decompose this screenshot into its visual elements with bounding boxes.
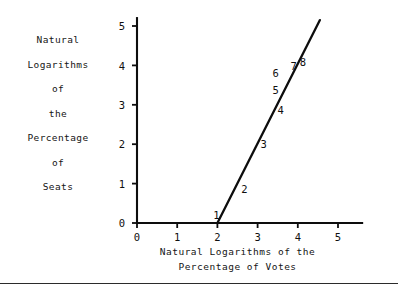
data-point-label-group: 12345678 [213, 56, 306, 221]
chart-axes [137, 18, 362, 223]
x-tick-group: 012345 [134, 223, 341, 243]
y-tick-label: 4 [119, 60, 125, 72]
y-axis-title-line: Natural [6, 28, 110, 53]
data-point-label: 1 [213, 209, 219, 221]
y-tick-label: 2 [119, 138, 125, 150]
data-point-label: 6 [273, 67, 279, 79]
regression-line-group [217, 20, 320, 223]
footer-caption [186, 286, 398, 295]
y-axis-title: Natural Logarithms of the Percentage of … [6, 28, 110, 200]
x-tick-label: 0 [134, 231, 140, 243]
y-axis-title-line: of [6, 77, 110, 102]
x-tick-label: 5 [335, 231, 341, 243]
x-axis-title-line: Percentage of Votes [110, 260, 365, 275]
y-axis-title-line: Percentage [6, 126, 110, 151]
x-tick-label: 2 [214, 231, 220, 243]
y-tick-label: 0 [119, 217, 125, 229]
scatter-chart: 012345 012345 12345678 [110, 6, 398, 246]
data-point-label: 7 [290, 60, 296, 72]
x-tick-label: 1 [174, 231, 180, 243]
x-axis-title: Natural Logarithms of the Percentage of … [110, 245, 365, 274]
y-tick-label: 3 [119, 99, 125, 111]
footer-divider [0, 283, 398, 284]
data-point-label: 8 [300, 56, 306, 68]
x-tick-label: 3 [254, 231, 260, 243]
y-axis-title-line: Logarithms [6, 53, 110, 78]
data-point-label: 2 [241, 183, 247, 195]
x-axis-title-line: Natural Logarithms of the [110, 245, 365, 260]
y-tick-group: 012345 [119, 20, 137, 229]
chart-plot-area: 012345 012345 12345678 [110, 6, 398, 246]
x-tick-label: 4 [295, 231, 301, 243]
regression-line [217, 20, 320, 223]
y-tick-label: 1 [119, 178, 125, 190]
data-point-label: 5 [273, 84, 279, 96]
y-axis-title-line: Seats [6, 175, 110, 200]
y-axis-title-line: of [6, 151, 110, 176]
data-point-label: 4 [278, 104, 284, 116]
y-tick-label: 5 [119, 20, 125, 32]
figure-page: Natural Logarithms of the Percentage of … [0, 0, 398, 295]
data-point-label: 3 [260, 138, 266, 150]
y-axis-title-line: the [6, 102, 110, 127]
